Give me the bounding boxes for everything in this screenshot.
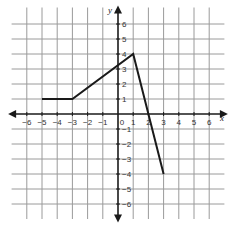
x-tick-label: 6 [207, 118, 212, 127]
y-tick-label: −2 [122, 140, 132, 149]
x-tick-label: 1 [131, 118, 136, 127]
y-tick-label: −1 [122, 125, 132, 134]
y-tick-label: 6 [122, 20, 127, 29]
y-tick-label: 5 [122, 35, 127, 44]
x-tick-label: 4 [177, 118, 182, 127]
y-tick-label: −5 [122, 185, 132, 194]
y-tick-label: 1 [122, 95, 127, 104]
y-tick-label: 4 [122, 50, 127, 59]
x-tick-label: −5 [37, 118, 47, 127]
x-tick-label: −4 [53, 118, 63, 127]
x-tick-label: 3 [161, 118, 166, 127]
x-tick-label: −1 [98, 118, 108, 127]
y-axis-up-arrow-icon [114, 6, 122, 14]
x-axis-left-arrow-icon [8, 110, 16, 118]
y-axis-label: y [107, 5, 112, 15]
x-axis-label: x [219, 113, 224, 123]
x-tick-label: −3 [68, 118, 78, 127]
y-axis-down-arrow-icon [114, 215, 122, 223]
coordinate-plane: −6−5−4−3−2−10123456654321−1−2−3−4−5−6 x … [0, 0, 239, 226]
y-tick-label: 2 [122, 80, 127, 89]
y-tick-label: −4 [122, 170, 132, 179]
x-tick-label: −2 [83, 118, 93, 127]
y-tick-label: −6 [122, 200, 132, 209]
y-tick-label: −3 [122, 155, 132, 164]
x-tick-label: −6 [22, 118, 32, 127]
y-tick-label: 3 [122, 65, 127, 74]
x-tick-label: 5 [192, 118, 197, 127]
axes [8, 6, 228, 223]
